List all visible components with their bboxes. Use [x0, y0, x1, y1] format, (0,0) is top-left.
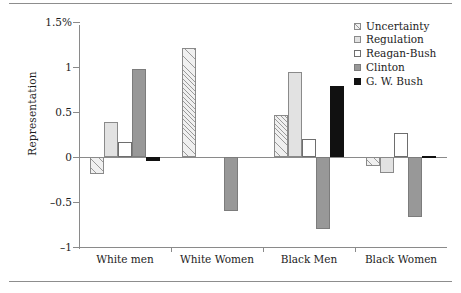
legend-swatch-icon: [354, 78, 361, 85]
y-tick-mark: [73, 247, 80, 248]
y-tick-label-wrap: 1.5%: [26, 17, 72, 28]
bar: [146, 157, 160, 161]
legend-swatch-icon: [354, 50, 361, 57]
legend-swatch-icon: [354, 36, 361, 43]
legend-item[interactable]: G. W. Bush: [354, 75, 458, 87]
bar: [224, 157, 238, 211]
y-tick-mark: [73, 22, 80, 23]
bar: [330, 86, 344, 157]
y-tick-label-wrap: –1: [26, 242, 72, 253]
figure-top-rule: [9, 3, 452, 4]
figure-bottom-rule: [9, 281, 452, 282]
bar-group: [79, 27, 171, 247]
bar: [132, 69, 146, 157]
legend-item[interactable]: Reagan-Bush: [354, 48, 458, 60]
x-category-label: White Women: [171, 253, 263, 265]
x-category-label: White men: [79, 253, 171, 265]
bar: [366, 157, 380, 166]
legend-label: Clinton: [366, 62, 405, 73]
y-tick-label-wrap: 0.5: [26, 107, 72, 118]
bar: [394, 133, 408, 157]
y-tick-label-wrap: –0.5: [26, 197, 72, 208]
y-tick-label: 1: [32, 62, 72, 73]
bar: [274, 115, 288, 157]
legend-item[interactable]: Regulation: [354, 34, 458, 46]
y-tick-label-wrap: 1: [26, 62, 72, 73]
chart-figure: Representation 1.5%10.50–0.5–1 White men…: [0, 0, 461, 293]
bar: [408, 157, 422, 217]
x-tick-mark: [171, 247, 172, 252]
bar: [118, 142, 132, 157]
legend-label: G. W. Bush: [366, 76, 423, 87]
legend-swatch-icon: [354, 64, 361, 71]
bar: [104, 122, 118, 157]
legend-swatch-icon: [354, 23, 361, 30]
y-tick-label-wrap: 0: [26, 152, 72, 163]
x-tick-mark: [355, 247, 356, 252]
y-tick-label: –1: [32, 242, 72, 253]
bar: [380, 157, 394, 173]
legend-label: Regulation: [366, 34, 424, 45]
chart-legend: UncertaintyRegulationReagan-BushClintonG…: [354, 20, 458, 89]
bar: [288, 72, 302, 157]
x-category-label: Black Women: [355, 253, 447, 265]
y-tick-label: 1.5%: [32, 17, 72, 28]
bar: [182, 48, 196, 157]
bar: [316, 157, 330, 229]
x-category-label: Black Men: [263, 253, 355, 265]
legend-item[interactable]: Clinton: [354, 61, 458, 73]
bar: [302, 139, 316, 157]
bar-group: [263, 27, 355, 247]
legend-item[interactable]: Uncertainty: [354, 20, 458, 32]
y-tick-label: 0: [32, 152, 72, 163]
y-tick-label: –0.5: [32, 197, 72, 208]
bar-group: [171, 27, 263, 247]
y-tick-label: 0.5: [32, 107, 72, 118]
x-tick-mark: [263, 247, 264, 252]
bar: [90, 157, 104, 174]
bar: [422, 156, 436, 158]
legend-label: Uncertainty: [366, 21, 429, 32]
legend-label: Reagan-Bush: [366, 48, 436, 59]
